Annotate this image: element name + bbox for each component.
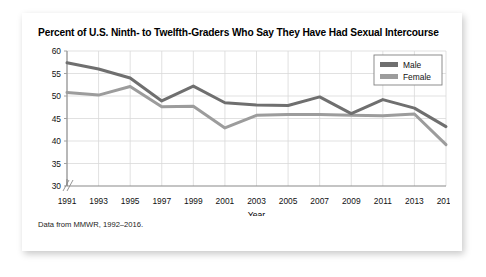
x-axis-tick-label: 2007: [310, 196, 329, 206]
x-axis-tick-label: 1997: [152, 196, 171, 206]
x-axis-tick-label: 1995: [121, 196, 140, 206]
x-axis-tick-label: 2015: [437, 196, 450, 206]
x-axis-tick-label: 1991: [58, 196, 77, 206]
y-axis-tick-label: 30: [52, 181, 62, 191]
x-axis-tick-label: 1993: [89, 196, 108, 206]
legend-label-female: Female: [403, 72, 431, 82]
chart-title: Percent of U.S. Ninth- to Twelfth-Grader…: [38, 27, 452, 38]
y-axis-tick-label: 50: [52, 91, 62, 101]
legend-label-male: Male: [403, 60, 421, 70]
x-axis-tick-label: 2011: [374, 196, 392, 206]
x-axis-tick-label: 2001: [216, 196, 235, 206]
x-axis-tick-label: 2003: [247, 196, 266, 206]
x-axis-tick-label: 2005: [279, 196, 298, 206]
line-chart-svg: 3035404550556019911993199519971999200120…: [36, 44, 450, 216]
y-axis-tick-label: 45: [52, 114, 62, 124]
y-axis-tick-label: 35: [52, 159, 62, 169]
chart-plot-area: 3035404550556019911993199519971999200120…: [36, 44, 450, 216]
y-axis-tick-label: 40: [52, 136, 62, 146]
x-axis-tick-label: 2009: [342, 196, 361, 206]
legend-swatch-female: [380, 74, 398, 79]
chart-card: Percent of U.S. Ninth- to Twelfth-Grader…: [22, 13, 462, 251]
x-axis-tick-label: 2013: [405, 196, 424, 206]
x-axis-tick-label: 1999: [184, 196, 203, 206]
y-axis-tick-label: 60: [52, 46, 62, 56]
y-axis-tick-label: 55: [52, 69, 62, 79]
legend-swatch-male: [380, 62, 398, 67]
chart-source-note: Data from MMWR, 1992–2016.: [38, 220, 143, 229]
x-axis-title: Year: [248, 210, 266, 216]
